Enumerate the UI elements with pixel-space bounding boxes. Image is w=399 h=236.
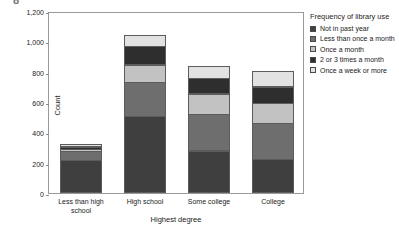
figure-number-glyph: 8 (13, 0, 19, 6)
legend: Frequency of library use Not in past yea… (310, 12, 398, 77)
bar-segment[interactable] (188, 66, 230, 79)
plot-area: Count 02004006008001,0001,200 Less than … (48, 12, 304, 194)
bar-segment[interactable] (252, 71, 294, 87)
legend-swatch-icon (310, 46, 316, 52)
legend-item[interactable]: Once a week or more (310, 67, 398, 74)
bar-college[interactable] (252, 71, 294, 193)
bar-high-school[interactable] (124, 35, 166, 193)
legend-swatch-icon (310, 26, 316, 32)
bar-segment[interactable] (124, 46, 166, 65)
bar-segment[interactable] (124, 116, 166, 193)
figure-container: 8 Count 02004006008001,0001,200 Less tha… (0, 0, 399, 236)
legend-items: Not in past yearLess than once a monthOn… (310, 25, 398, 74)
y-axis-tick-label: 800 (32, 70, 44, 77)
legend-swatch-icon (310, 67, 316, 73)
legend-item-label: Once a month (320, 46, 364, 53)
x-axis-title: Highest degree (48, 215, 304, 224)
bar-segment[interactable] (252, 159, 294, 193)
y-axis-tick-label: 400 (32, 130, 44, 137)
y-axis-tick-label: 0 (40, 191, 44, 198)
legend-item[interactable]: Less than once a month (310, 35, 398, 42)
bar-segment[interactable] (188, 78, 230, 94)
bar-some-college[interactable] (188, 66, 230, 193)
bar-segment[interactable] (124, 35, 166, 47)
legend-item[interactable]: Once a month (310, 46, 398, 53)
x-axis-tick-label: College (235, 198, 311, 207)
legend-item-label: 2 or 3 times a month (320, 56, 384, 63)
bar-segment[interactable] (188, 151, 230, 193)
legend-item[interactable]: 2 or 3 times a month (310, 56, 398, 63)
y-axis-title: Count (53, 76, 62, 136)
bar-segment[interactable] (252, 87, 294, 104)
y-axis-tick-label: 1,000 (26, 39, 44, 46)
bar-segment[interactable] (124, 65, 166, 83)
bar-segment[interactable] (252, 103, 294, 123)
y-axis-tick-label: 1,200 (26, 9, 44, 16)
legend-swatch-icon (310, 36, 316, 42)
legend-title: Frequency of library use (310, 12, 398, 21)
bar-less-than-high-school[interactable] (60, 144, 102, 193)
legend-swatch-icon (310, 57, 316, 63)
bar-segment[interactable] (60, 160, 102, 193)
legend-item-label: Not in past year (320, 25, 369, 32)
legend-item-label: Less than once a month (320, 35, 395, 42)
y-axis-tick-label: 200 (32, 161, 44, 168)
y-axis-tick-label: 600 (32, 100, 44, 107)
bar-segment[interactable] (124, 82, 166, 117)
bar-segment[interactable] (188, 114, 230, 151)
bar-segment[interactable] (188, 94, 230, 115)
bar-segment[interactable] (252, 123, 294, 159)
legend-item-label: Once a week or more (320, 67, 387, 74)
legend-item[interactable]: Not in past year (310, 25, 398, 32)
